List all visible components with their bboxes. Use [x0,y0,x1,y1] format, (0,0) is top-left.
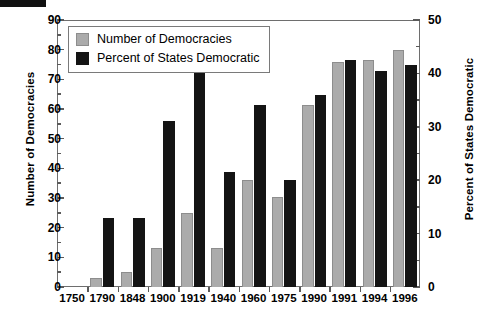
y-tick-label-left: 20 [21,221,61,235]
x-tick-label: 1790 [90,292,116,304]
bar-percent-of-states-democratic [163,121,175,287]
y-tick-label-right: 20 [428,173,468,187]
y-tick-label-right: 40 [428,66,468,80]
x-tick [299,287,301,292]
x-tick-label: 1848 [120,292,146,304]
bar-percent-of-states-democratic [194,65,206,287]
x-tick [87,287,89,292]
bar-percent-of-states-democratic [345,60,357,287]
bar-percent-of-states-democratic [254,105,266,287]
x-tick [390,287,392,292]
x-tick-label: 1900 [150,292,176,304]
x-tick-label: 1994 [362,292,388,304]
x-tick [329,287,331,292]
bar-percent-of-states-democratic [405,65,417,287]
legend-label-percent-of-states-democratic: Percent of States Democratic [97,52,260,65]
y-tick-label-right: 10 [428,227,468,241]
bar-number-of-democracies [90,278,102,287]
legend-swatch-gray [76,33,89,46]
x-tick-label: 1960 [241,292,267,304]
y-tick-label-left: 40 [21,161,61,175]
x-tick [118,287,120,292]
legend-label-number-of-democracies: Number of Democracies [97,33,232,46]
x-tick [239,287,241,292]
bar-percent-of-states-democratic [375,71,387,287]
bar-number-of-democracies [211,248,223,287]
y-tick-label-left: 80 [21,43,61,57]
x-tick [360,287,362,292]
bar-percent-of-states-democratic [224,172,236,287]
chart-legend: Number of Democracies Percent of States … [68,26,270,73]
bar-number-of-democracies [121,272,133,287]
x-tick-label: 1996 [392,292,418,304]
y-tick-label-right: 0 [428,280,468,294]
y-tick-label-left: 60 [21,102,61,116]
y-tick-label-left: 30 [21,191,61,205]
bar-chart: Number of Democracies Percent of States … [0,0,486,323]
legend-item-percent-of-states-democratic: Percent of States Democratic [76,50,260,67]
bar-percent-of-states-democratic [284,180,296,287]
x-tick-label: 1750 [59,292,85,304]
x-tick-label: 1975 [271,292,297,304]
x-tick [148,287,150,292]
x-tick-label: 1991 [332,292,358,304]
y-tick-label-left: 10 [21,250,61,264]
bar-percent-of-states-democratic [103,218,115,287]
bar-percent-of-states-democratic [133,218,145,287]
x-tick [208,287,210,292]
bar-number-of-democracies [393,50,405,287]
x-tick-label: 1990 [301,292,327,304]
y-tick-label-left: 90 [21,13,61,27]
y-tick-label-right: 50 [428,13,468,27]
y-tick-label-left: 50 [21,132,61,146]
bar-number-of-democracies [151,248,163,287]
legend-item-number-of-democracies: Number of Democracies [76,31,260,48]
x-tick-label: 1940 [211,292,237,304]
y-tick-label-left: 70 [21,72,61,86]
bar-number-of-democracies [181,213,193,287]
x-tick [269,287,271,292]
x-tick-label: 1919 [180,292,206,304]
bar-number-of-democracies [332,62,344,287]
y-tick-label-left: 0 [21,280,61,294]
legend-swatch-black [76,52,89,65]
bar-percent-of-states-democratic [315,95,327,287]
bar-number-of-democracies [363,60,375,287]
y-tick-label-right: 30 [428,120,468,134]
x-tick [178,287,180,292]
bar-number-of-democracies [272,197,284,287]
bar-number-of-democracies [302,105,314,287]
bar-number-of-democracies [242,180,254,287]
